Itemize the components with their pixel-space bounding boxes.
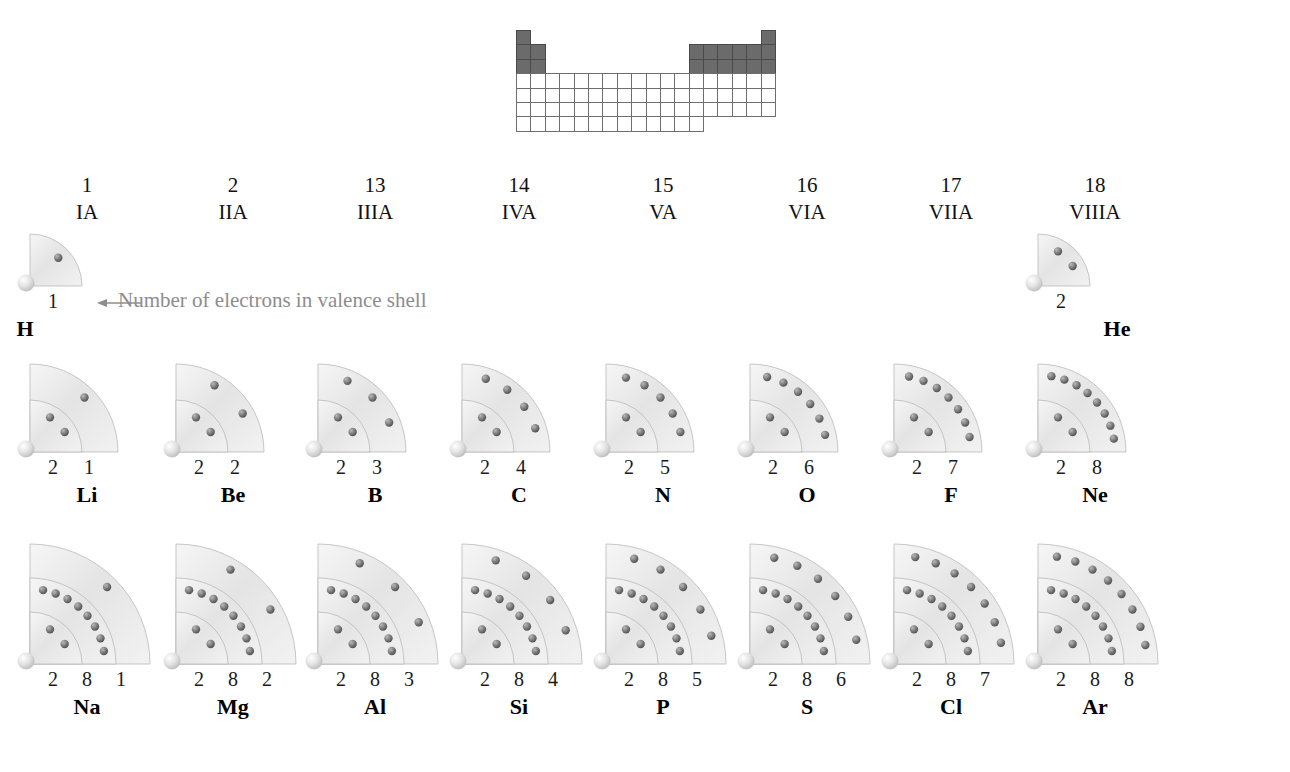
- periodic-table-cell-blank: [631, 44, 646, 59]
- electron: [831, 592, 839, 600]
- shell-electron-count-1: 2: [42, 668, 64, 691]
- periodic-table-cell-highlighted: [530, 59, 545, 74]
- electron: [997, 639, 1005, 647]
- periodic-table-cell: [717, 102, 732, 117]
- element-cell-F: 27F: [876, 358, 1026, 518]
- electron: [780, 640, 788, 648]
- electron: [780, 428, 788, 436]
- electron: [1047, 586, 1055, 594]
- electron: [944, 393, 952, 401]
- electron: [1083, 389, 1091, 397]
- shell-electron-count-1: 2: [906, 456, 928, 479]
- shell-electron-count-1: 2: [330, 668, 352, 691]
- electron: [964, 647, 972, 655]
- electron: [927, 595, 935, 603]
- element-cell-Ar: 288Ar: [1020, 538, 1170, 698]
- element-symbol-F: F: [876, 482, 1026, 508]
- electron: [197, 589, 205, 597]
- electron: [991, 618, 999, 626]
- electron: [388, 647, 396, 655]
- periodic-table-cell: [617, 73, 632, 88]
- electron: [63, 595, 71, 603]
- shell-electron-count-3: 1: [110, 668, 132, 691]
- periodic-table-cell-blank: [746, 30, 761, 45]
- electron: [91, 622, 99, 630]
- periodic-table-cell-highlighted: [703, 59, 718, 74]
- shell-electron-count-1: 2: [330, 456, 352, 479]
- periodic-table-cell-blank: [717, 30, 732, 45]
- shell-electron-count-2: 8: [1084, 668, 1106, 691]
- nucleus: [594, 441, 611, 458]
- electron: [351, 595, 359, 603]
- electron: [905, 372, 913, 380]
- periodic-table-row: [516, 116, 775, 130]
- periodic-table-cell: [574, 73, 589, 88]
- periodic-table-cell: [588, 88, 603, 103]
- periodic-table-cell: [588, 116, 603, 131]
- element-cell-Na: 281Na: [12, 538, 162, 698]
- electron: [627, 589, 635, 597]
- electron: [806, 400, 814, 408]
- periodic-table-cell: [732, 73, 747, 88]
- periodic-table-cell-highlighted: [761, 59, 776, 74]
- periodic-table-cell-highlighted: [761, 30, 776, 45]
- periodic-table-cell: [717, 73, 732, 88]
- electron: [46, 625, 54, 633]
- element-symbol-Al: Al: [300, 694, 450, 720]
- nucleus: [18, 441, 35, 458]
- electron: [960, 634, 968, 642]
- periodic-table-cell-highlighted: [516, 59, 531, 74]
- electron: [630, 555, 638, 563]
- shell-electron-count-1: 2: [188, 668, 210, 691]
- electron: [910, 413, 918, 421]
- electron: [672, 634, 680, 642]
- element-symbol-H: H: [0, 316, 100, 342]
- periodic-table-row: [516, 44, 775, 58]
- electron: [811, 622, 819, 630]
- periodic-table-cell: [574, 102, 589, 117]
- element-symbol-Li: Li: [12, 482, 162, 508]
- electron: [1136, 623, 1144, 631]
- periodic-table-cell: [746, 73, 761, 88]
- periodic-table-cell-highlighted: [732, 59, 747, 74]
- electron: [656, 565, 664, 573]
- electron: [915, 589, 923, 597]
- electron: [924, 640, 932, 648]
- electron: [80, 393, 88, 401]
- shell-electron-count-2: 4: [510, 456, 532, 479]
- periodic-table-cell: [631, 73, 646, 88]
- group-header-1: 1IA: [12, 172, 162, 226]
- shell-electron-count-3: 4: [542, 668, 564, 691]
- periodic-table-cell-highlighted: [516, 30, 531, 45]
- electron: [478, 625, 486, 633]
- periodic-table-cell: [703, 73, 718, 88]
- electron: [1104, 634, 1112, 642]
- periodic-table-cell: [559, 116, 574, 131]
- periodic-table-cell-blank: [602, 59, 617, 74]
- shell-electron-count-1: 2: [474, 456, 496, 479]
- electron: [391, 583, 399, 591]
- periodic-table-cell: [631, 88, 646, 103]
- shell-electron-count-1: 2: [1050, 456, 1072, 479]
- periodic-table-cell: [617, 102, 632, 117]
- electron: [803, 612, 811, 620]
- electron: [650, 602, 658, 610]
- electron: [1054, 413, 1062, 421]
- element-symbol-He: He: [1042, 316, 1192, 342]
- element-symbol-Si: Si: [444, 694, 594, 720]
- element-symbol-C: C: [444, 482, 594, 508]
- electron: [668, 409, 676, 417]
- electron: [779, 378, 787, 386]
- nucleus: [738, 441, 755, 458]
- periodic-table-cell: [516, 88, 531, 103]
- periodic-table-cell-blank: [761, 116, 776, 131]
- electron: [343, 377, 351, 385]
- shell-electron-count-1: 2: [762, 668, 784, 691]
- electron: [1110, 434, 1118, 442]
- element-cell-P: 285P: [588, 538, 738, 698]
- shell-electron-count-2: 7: [942, 456, 964, 479]
- group-header-17: 17VIIA: [876, 172, 1026, 226]
- electron: [348, 640, 356, 648]
- periodic-table-cell: [545, 88, 560, 103]
- periodic-table-cell-blank: [631, 59, 646, 74]
